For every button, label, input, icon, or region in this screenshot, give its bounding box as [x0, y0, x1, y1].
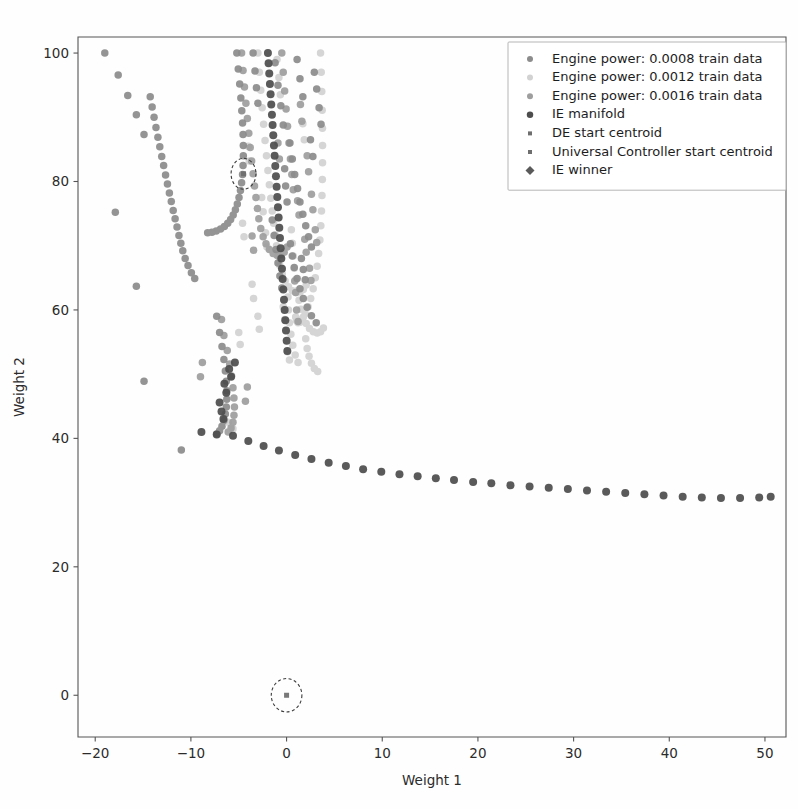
data-point [213, 431, 221, 439]
data-point [277, 102, 285, 110]
data-point [248, 232, 256, 240]
data-point [267, 90, 275, 98]
data-point [291, 451, 299, 459]
data-point [276, 234, 284, 242]
data-point [249, 49, 257, 57]
data-point [325, 459, 333, 467]
data-point [300, 295, 308, 303]
data-point [288, 226, 296, 234]
data-point [197, 373, 205, 381]
data-point [150, 114, 158, 122]
data-point [220, 380, 228, 388]
legend-marker-circle [527, 93, 533, 99]
data-point [307, 136, 315, 144]
legend-item-5[interactable]: Universal Controller start centroid [528, 144, 773, 159]
legend[interactable]: Engine power: 0.0008 train dataEngine po… [508, 42, 786, 190]
data-point [717, 494, 725, 502]
legend-marker-circle [527, 56, 533, 62]
legend-item-1[interactable]: Engine power: 0.0012 train data [527, 69, 762, 84]
x-tick-label: 10 [374, 745, 391, 761]
data-point [621, 489, 629, 497]
data-point [506, 481, 514, 489]
data-point [191, 275, 199, 283]
data-point [284, 693, 289, 698]
data-point [269, 121, 277, 129]
data-point [317, 49, 325, 57]
data-point [267, 100, 275, 108]
legend-marker-circle [527, 112, 534, 119]
data-point [305, 168, 313, 176]
data-point [293, 56, 301, 64]
series-5 [284, 693, 289, 698]
data-point [239, 162, 247, 170]
data-point [309, 285, 317, 293]
data-point [239, 131, 247, 139]
data-point [269, 131, 277, 139]
x-tick-label: 40 [661, 745, 678, 761]
data-point [660, 492, 668, 500]
data-point [246, 144, 254, 152]
data-point [267, 194, 275, 202]
data-point [259, 233, 267, 241]
data-point [250, 246, 258, 254]
data-point [199, 359, 207, 367]
data-point [294, 359, 302, 367]
data-point [222, 389, 230, 397]
data-point [274, 203, 282, 211]
data-point [359, 465, 367, 473]
data-point [273, 183, 281, 191]
x-tick-label: −20 [81, 745, 110, 761]
data-point [268, 111, 276, 119]
data-point [303, 345, 311, 353]
data-point [236, 80, 244, 88]
data-point [342, 462, 350, 470]
data-point [278, 49, 286, 57]
data-point [235, 194, 243, 202]
y-tick-label: 100 [43, 45, 69, 61]
data-point [319, 159, 327, 167]
legend-marker-square [528, 131, 532, 135]
data-point [545, 484, 553, 492]
legend-item-0[interactable]: Engine power: 0.0008 train data [527, 51, 762, 66]
data-point [230, 412, 238, 420]
data-point [253, 84, 261, 92]
data-point [229, 432, 237, 440]
data-point [164, 180, 172, 188]
data-point [311, 69, 319, 77]
figure-canvas: −20−1001020304050020406080100Weight 1Wei… [0, 0, 798, 809]
data-point [227, 373, 235, 381]
data-point [146, 93, 154, 101]
data-point [231, 359, 239, 367]
data-point [184, 262, 192, 270]
data-point [296, 198, 304, 206]
data-point [286, 356, 294, 364]
data-point [154, 133, 162, 141]
data-point [158, 153, 166, 161]
y-tick-label: 60 [52, 302, 69, 318]
data-point [315, 250, 323, 257]
data-point [679, 493, 687, 501]
data-point [218, 343, 226, 351]
data-point [275, 224, 283, 232]
data-point [254, 99, 262, 107]
data-point [377, 468, 385, 476]
data-point [279, 121, 287, 129]
y-tick-label: 40 [52, 430, 69, 446]
data-point [291, 351, 299, 359]
data-point [250, 295, 258, 303]
data-point [314, 368, 322, 376]
data-point [169, 207, 177, 215]
data-point [179, 247, 187, 255]
data-point [133, 282, 141, 290]
data-point [282, 182, 290, 190]
data-point [319, 142, 327, 150]
data-point [112, 209, 120, 217]
data-point [233, 49, 241, 57]
y-tick-label: 80 [52, 173, 69, 189]
data-point [309, 206, 317, 214]
data-point [312, 226, 320, 234]
data-point [450, 476, 458, 484]
data-point [296, 75, 304, 83]
legend-item-2[interactable]: Engine power: 0.0016 train data [527, 88, 762, 103]
data-point [297, 101, 305, 109]
